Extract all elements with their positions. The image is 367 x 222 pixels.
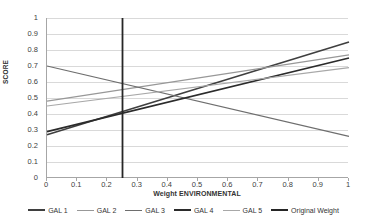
y-axis-title: SCORE <box>2 60 9 84</box>
x-tick-label: 0.6 <box>216 180 238 189</box>
legend-label: GAL 5 <box>243 207 263 214</box>
x-axis-title: Weight ENVIRONMENTAL <box>46 190 348 197</box>
legend-line-icon <box>28 209 45 211</box>
y-axis-tick-labels: 00.10.20.30.40.50.60.70.80.91 <box>0 0 42 196</box>
x-tick-label: 0 <box>35 180 57 189</box>
series-line <box>47 68 349 106</box>
x-tick-label: 0.2 <box>95 180 117 189</box>
x-tick-label: 0.4 <box>156 180 178 189</box>
chart-legend: GAL 1GAL 2GAL 3GAL 4GAL 5Original Weight <box>0 202 367 218</box>
x-tick-label: 0.5 <box>186 180 208 189</box>
y-tick-label: 1 <box>34 14 38 22</box>
x-tick-label: 0.7 <box>246 180 268 189</box>
legend-label: GAL 3 <box>145 207 165 214</box>
x-tick-label: 0.8 <box>277 180 299 189</box>
legend-line-icon <box>174 209 191 211</box>
legend-label: GAL 2 <box>97 207 117 214</box>
x-tick-label: 0.3 <box>126 180 148 189</box>
legend-item[interactable]: GAL 3 <box>125 207 165 214</box>
legend-item[interactable]: GAL 1 <box>28 207 68 214</box>
legend-item[interactable]: GAL 4 <box>174 207 214 214</box>
x-tick-label: 0.9 <box>307 180 329 189</box>
legend-line-icon <box>125 210 142 211</box>
y-tick-label: 0.5 <box>28 94 38 102</box>
x-tick-label: 0.1 <box>65 180 87 189</box>
y-tick-label: 0.6 <box>28 78 38 86</box>
legend-line-icon <box>223 210 240 211</box>
legend-label: Original Weight <box>291 207 339 214</box>
y-tick-label: 0.8 <box>28 46 38 54</box>
legend-item[interactable]: GAL 2 <box>77 207 117 214</box>
legend-item[interactable]: Original Weight <box>271 207 339 214</box>
y-tick-label: 0.1 <box>28 158 38 166</box>
legend-label: GAL 4 <box>194 207 214 214</box>
legend-line-icon <box>77 210 94 211</box>
line-chart: 00.10.20.30.40.50.60.70.80.91 SCORE 00.1… <box>0 0 367 222</box>
y-tick-label: 0.2 <box>28 142 38 150</box>
y-tick-label: 0.4 <box>28 110 38 118</box>
legend-line-icon <box>271 209 288 211</box>
plot-area <box>46 18 348 178</box>
y-tick-label: 0.7 <box>28 62 38 70</box>
legend-label: GAL 1 <box>48 207 68 214</box>
y-tick-label: 0.9 <box>28 30 38 38</box>
x-tick-label: 1 <box>337 180 359 189</box>
series-line <box>47 66 349 136</box>
legend-item[interactable]: GAL 5 <box>223 207 263 214</box>
series-canvas <box>47 18 349 178</box>
y-tick-label: 0.3 <box>28 126 38 134</box>
